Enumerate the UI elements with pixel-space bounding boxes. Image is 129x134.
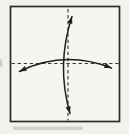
origami-step-diagram — [0, 0, 129, 134]
scan-smudge-bottom — [13, 127, 83, 130]
scanned-diagram-page — [0, 0, 129, 134]
scan-mark-left-edge — [0, 59, 2, 67]
